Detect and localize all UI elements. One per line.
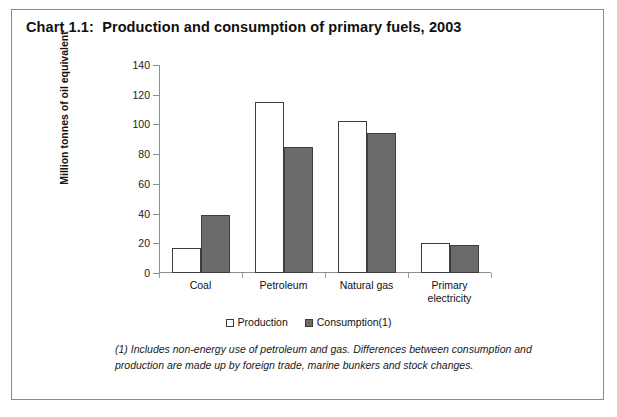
- bar-consumption: [201, 215, 230, 273]
- legend-item-consumption: Consumption(1): [305, 316, 392, 328]
- x-axis-category-label: Primaryelectricity: [390, 279, 510, 305]
- bar-consumption: [450, 245, 479, 273]
- y-axis-tick: [153, 154, 159, 155]
- legend-label-production: Production: [238, 316, 288, 328]
- bar-group: [172, 65, 230, 273]
- filled-square-icon: [305, 319, 313, 327]
- y-axis-tick: [153, 214, 159, 215]
- bar-production: [255, 102, 284, 273]
- bar-consumption: [367, 133, 396, 273]
- x-axis-tick: [242, 273, 243, 278]
- bar-consumption: [284, 147, 313, 273]
- y-axis-tick: [153, 95, 159, 96]
- bar-group: [338, 65, 396, 273]
- y-axis-tick-label: 140: [132, 59, 150, 71]
- bar-production: [421, 243, 450, 273]
- legend-label-consumption: Consumption(1): [317, 316, 392, 328]
- y-axis-tick-label: 20: [138, 237, 150, 249]
- x-axis-tick: [159, 273, 160, 278]
- y-axis-tick-label: 120: [132, 89, 150, 101]
- plot-area: Million tonnes of oil equivalent 0204060…: [12, 10, 605, 401]
- y-axis-tick-label: 80: [138, 148, 150, 160]
- chart-footnote: (1) Includes non-energy use of petroleum…: [115, 342, 535, 373]
- y-axis-line: [159, 65, 160, 273]
- bar-production: [338, 121, 367, 273]
- bar-group: [421, 65, 479, 273]
- x-axis-tick: [408, 273, 409, 278]
- bar-group: [255, 65, 313, 273]
- bar-production: [172, 248, 201, 273]
- y-axis-tick-label: 40: [138, 208, 150, 220]
- x-axis-tick: [325, 273, 326, 278]
- y-axis-tick: [153, 124, 159, 125]
- chart-panel: Chart 1.1: Production and consumption of…: [11, 9, 604, 400]
- y-axis-tick: [153, 65, 159, 66]
- x-axis-tick: [491, 273, 492, 278]
- y-axis-tick: [153, 184, 159, 185]
- chart-legend: Production Consumption(1): [12, 316, 605, 328]
- y-axis-tick-label: 0: [144, 267, 150, 279]
- y-axis-title: Million tonnes of oil equivalent: [58, 8, 70, 208]
- y-axis-tick: [153, 243, 159, 244]
- y-axis-tick-label: 100: [132, 118, 150, 130]
- open-square-icon: [226, 319, 234, 327]
- y-axis-tick-label: 60: [138, 178, 150, 190]
- plot-canvas: 020406080100120140CoalPetroleumNatural g…: [159, 65, 491, 273]
- legend-item-production: Production: [226, 316, 288, 328]
